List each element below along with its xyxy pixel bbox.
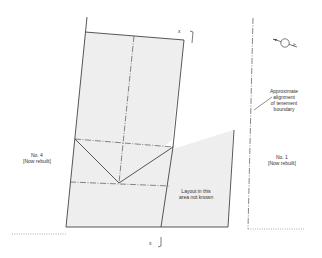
section-mark-bottom-bracket (158, 237, 161, 247)
unknown-layout-area (161, 130, 233, 227)
right-property-label: No. 1 [Now rebuilt] (268, 154, 296, 166)
unknown-area-label: Layout in this area not known (179, 188, 213, 200)
tenement-boundary-line (248, 18, 253, 229)
section-mark-top-bracket (190, 31, 193, 43)
unknown-area-line2: area not known (179, 194, 213, 200)
section-mark-top: x (178, 28, 181, 34)
boundary-note-line4: boundary (270, 106, 298, 112)
section-mark-bottom: x (149, 240, 152, 246)
left-property-label: No. 4 [Now rebuilt] (23, 152, 51, 164)
left-property-status: [Now rebuilt] (23, 158, 51, 164)
floor-plan-diagram (0, 0, 322, 258)
boundary-note-label: Approximate alignment of tenement bounda… (270, 88, 298, 112)
right-property-status: [Now rebuilt] (268, 160, 296, 166)
